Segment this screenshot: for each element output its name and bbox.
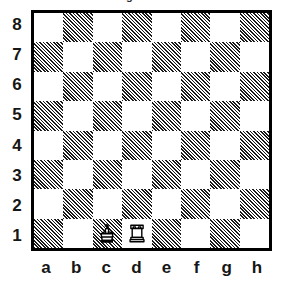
square-c6[interactable] <box>93 72 122 101</box>
file-label-c: c <box>91 255 121 281</box>
square-c1[interactable] <box>93 219 122 248</box>
square-d1[interactable] <box>122 219 151 248</box>
square-e4[interactable] <box>152 131 181 160</box>
white-rook-icon <box>125 221 149 245</box>
square-h7[interactable] <box>240 42 269 71</box>
square-a8[interactable] <box>34 13 63 42</box>
file-label-e: e <box>152 255 182 281</box>
square-a4[interactable] <box>34 131 63 160</box>
square-f2[interactable] <box>181 189 210 218</box>
square-d3[interactable] <box>122 160 151 189</box>
square-h4[interactable] <box>240 131 269 160</box>
chess-board <box>31 10 272 251</box>
square-d7[interactable] <box>122 42 151 71</box>
square-g2[interactable] <box>210 189 239 218</box>
square-h3[interactable] <box>240 160 269 189</box>
square-e5[interactable] <box>152 101 181 130</box>
rank-label-6: 6 <box>6 70 28 100</box>
file-label-h: h <box>242 255 272 281</box>
square-c7[interactable] <box>93 42 122 71</box>
square-g5[interactable] <box>210 101 239 130</box>
file-label-f: f <box>182 255 212 281</box>
square-e2[interactable] <box>152 189 181 218</box>
square-a7[interactable] <box>34 42 63 71</box>
square-h1[interactable] <box>240 219 269 248</box>
square-d4[interactable] <box>122 131 151 160</box>
square-g1[interactable] <box>210 219 239 248</box>
rank-label-8: 8 <box>6 10 28 40</box>
square-h5[interactable] <box>240 101 269 130</box>
square-b6[interactable] <box>63 72 92 101</box>
square-a1[interactable] <box>34 219 63 248</box>
square-a6[interactable] <box>34 72 63 101</box>
square-a2[interactable] <box>34 189 63 218</box>
square-b4[interactable] <box>63 131 92 160</box>
square-e3[interactable] <box>152 160 181 189</box>
square-f8[interactable] <box>181 13 210 42</box>
square-h8[interactable] <box>240 13 269 42</box>
square-e8[interactable] <box>152 13 181 42</box>
square-f3[interactable] <box>181 160 210 189</box>
square-e7[interactable] <box>152 42 181 71</box>
file-label-b: b <box>61 255 91 281</box>
rank-label-5: 5 <box>6 100 28 130</box>
square-b7[interactable] <box>63 42 92 71</box>
square-d5[interactable] <box>122 101 151 130</box>
square-c5[interactable] <box>93 101 122 130</box>
square-a3[interactable] <box>34 160 63 189</box>
rank-label-1: 1 <box>6 221 28 251</box>
white-king-icon <box>95 221 119 245</box>
rank-label-7: 7 <box>6 40 28 70</box>
file-label-a: a <box>31 255 61 281</box>
square-f7[interactable] <box>181 42 210 71</box>
square-f4[interactable] <box>181 131 210 160</box>
square-f5[interactable] <box>181 101 210 130</box>
square-e6[interactable] <box>152 72 181 101</box>
square-g3[interactable] <box>210 160 239 189</box>
rank-label-4: 4 <box>6 131 28 161</box>
square-c4[interactable] <box>93 131 122 160</box>
file-label-g: g <box>212 255 242 281</box>
top-cropped-glyph-artifact: g <box>126 0 135 2</box>
square-a5[interactable] <box>34 101 63 130</box>
square-f6[interactable] <box>181 72 210 101</box>
square-h6[interactable] <box>240 72 269 101</box>
square-g4[interactable] <box>210 131 239 160</box>
square-b8[interactable] <box>63 13 92 42</box>
chess-board-grid <box>34 13 269 248</box>
square-d6[interactable] <box>122 72 151 101</box>
file-labels: a b c d e f g h <box>31 255 272 281</box>
rank-label-2: 2 <box>6 191 28 221</box>
square-d2[interactable] <box>122 189 151 218</box>
square-c3[interactable] <box>93 160 122 189</box>
chess-diagram: g 8 7 6 5 4 3 2 1 <box>0 0 292 288</box>
file-label-d: d <box>121 255 151 281</box>
square-f1[interactable] <box>181 219 210 248</box>
square-c2[interactable] <box>93 189 122 218</box>
square-b5[interactable] <box>63 101 92 130</box>
square-c8[interactable] <box>93 13 122 42</box>
square-g7[interactable] <box>210 42 239 71</box>
rank-label-3: 3 <box>6 161 28 191</box>
square-g6[interactable] <box>210 72 239 101</box>
square-h2[interactable] <box>240 189 269 218</box>
rank-labels: 8 7 6 5 4 3 2 1 <box>6 10 28 251</box>
square-b2[interactable] <box>63 189 92 218</box>
square-b3[interactable] <box>63 160 92 189</box>
square-g8[interactable] <box>210 13 239 42</box>
square-e1[interactable] <box>152 219 181 248</box>
square-d8[interactable] <box>122 13 151 42</box>
square-b1[interactable] <box>63 219 92 248</box>
